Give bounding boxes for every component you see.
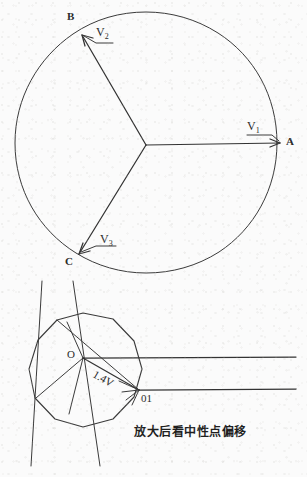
chord-line-lowerleft xyxy=(36,358,83,398)
upper-phasor-diagram xyxy=(15,12,280,273)
phasor-label-v3-base: V xyxy=(100,232,109,246)
vertex-label-a: A xyxy=(286,135,294,147)
phasor-label-v1: V1 xyxy=(247,119,260,135)
figure-page: .stroke-thin { fill:none; stroke:#3a3a3a… xyxy=(0,0,307,477)
phasor-label-v3-subscript: 3 xyxy=(109,239,113,248)
phasor-label-v1-subscript: 1 xyxy=(256,126,260,135)
phasor-v1-line xyxy=(146,143,280,145)
horizontal-ray-from-o xyxy=(83,357,296,358)
figure-caption: 放大后看中性点偏移 xyxy=(134,422,247,439)
vertex-label-b: B xyxy=(67,10,75,22)
phasor-label-v2: V2 xyxy=(96,25,109,41)
node-label-o: O xyxy=(67,348,75,360)
horizontal-ray-from-o1 xyxy=(139,389,296,390)
vertex-label-c: C xyxy=(65,255,73,267)
phasor-label-v2-subscript: 2 xyxy=(105,32,109,41)
phasor-label-v3: V3 xyxy=(100,232,113,248)
node-label-o1: 01 xyxy=(141,392,152,404)
oblique-line-1 xyxy=(31,281,42,466)
spoke-o-lower xyxy=(69,358,83,414)
phasor-figure-svg: .stroke-thin { fill:none; stroke:#3a3a3a… xyxy=(0,0,307,477)
phasor-circle xyxy=(15,12,277,273)
phasor-label-v2-base: V xyxy=(96,25,105,39)
phasor-v2-line xyxy=(82,35,146,145)
phasor-label-v1-base: V xyxy=(247,119,256,133)
